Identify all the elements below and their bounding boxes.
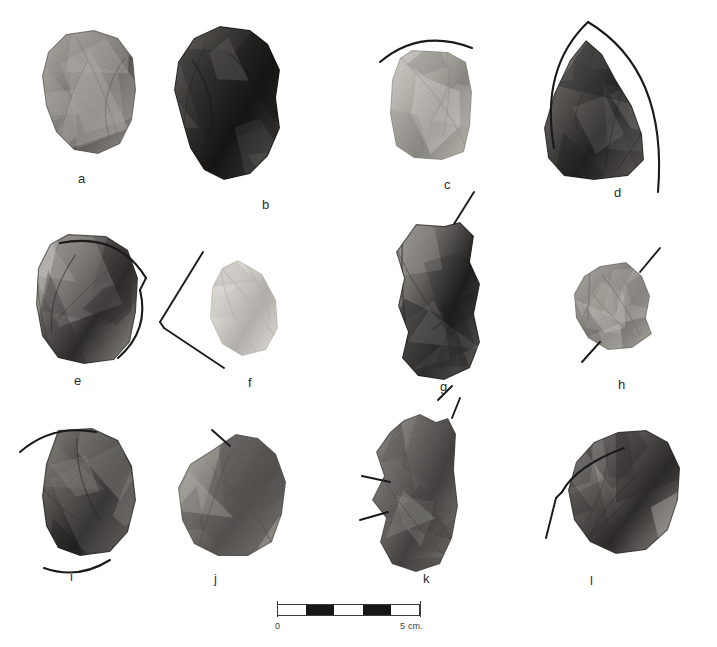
edge-indicator-f-1 <box>160 322 164 328</box>
scale-tick-end <box>420 601 421 617</box>
specimen-h <box>570 262 656 352</box>
artifact-plate: abcdefghijkl 0 5 cm. <box>0 0 717 647</box>
specimen-e <box>30 232 144 367</box>
specimen-a <box>36 28 141 156</box>
specimen-i <box>28 428 138 558</box>
specimen-label-d: d <box>614 186 622 199</box>
specimen-photo-c <box>386 48 476 163</box>
scale-start-label: 0 <box>275 621 280 631</box>
specimen-label-l: l <box>590 574 593 587</box>
specimen-photo-i <box>28 428 138 558</box>
specimen-photo-j <box>170 432 292 560</box>
specimen-label-f: f <box>248 376 252 389</box>
edge-indicator-l-2 <box>546 498 556 538</box>
scale-segment-2 <box>334 605 362 615</box>
specimen-photo-b <box>168 24 286 182</box>
specimen-d <box>530 38 660 180</box>
edge-indicator-f-0 <box>160 252 203 322</box>
specimen-label-j: j <box>214 572 217 585</box>
specimen-j <box>170 432 292 560</box>
scale-end-label: 5 cm. <box>400 621 423 631</box>
specimen-g <box>382 222 488 382</box>
specimen-label-k: k <box>423 572 430 585</box>
edge-indicator-i-1 <box>44 560 110 573</box>
scale-segment-3 <box>363 605 391 615</box>
specimen-photo-e <box>30 232 144 367</box>
specimen-label-e: e <box>74 374 82 387</box>
specimen-label-h: h <box>618 378 626 391</box>
scale-bar <box>277 604 420 616</box>
specimen-f <box>204 258 282 358</box>
specimen-photo-f <box>204 258 282 358</box>
specimen-l <box>560 428 686 558</box>
specimen-photo-g <box>382 222 488 382</box>
specimen-label-b: b <box>262 198 270 211</box>
edge-indicator-g-0 <box>454 192 474 224</box>
specimen-c <box>386 48 476 163</box>
specimen-b <box>168 24 286 182</box>
specimen-photo-k <box>358 414 468 574</box>
specimen-label-a: a <box>78 172 86 185</box>
specimen-k <box>358 414 468 574</box>
specimen-photo-l <box>560 428 686 558</box>
scale-segment-1 <box>306 605 334 615</box>
scale-tick-start <box>277 601 278 617</box>
specimen-photo-a <box>36 28 141 156</box>
specimen-photo-h <box>570 262 656 352</box>
scale-segment-0 <box>278 605 306 615</box>
specimen-label-c: c <box>444 178 451 191</box>
specimen-photo-d <box>530 38 660 180</box>
specimen-label-i: i <box>70 570 73 583</box>
scale-segment-4 <box>391 605 419 615</box>
specimen-label-g: g <box>440 380 448 393</box>
